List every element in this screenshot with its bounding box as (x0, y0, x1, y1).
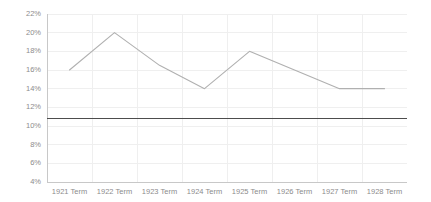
y-tick-label: 20% (26, 28, 41, 37)
x-tick-label: 1928 Term (367, 187, 402, 196)
x-tick-label: 1922 Term (97, 187, 132, 196)
y-axis-tick-labels: 22%20%18%16%14%12%10%8%6%4% (26, 9, 41, 186)
x-axis-tick-labels: 1921 Term1922 Term1923 Term1924 Term1925… (52, 187, 402, 196)
y-tick-label: 18% (26, 46, 41, 55)
y-tick-label: 22% (26, 9, 41, 18)
x-tick-label: 1925 Term (232, 187, 267, 196)
y-tick-label: 8% (30, 140, 41, 149)
y-tick-label: 6% (30, 158, 41, 167)
y-tick-label: 10% (26, 121, 41, 130)
x-tick-label: 1927 Term (322, 187, 357, 196)
line-chart: 22%20%18%16%14%12%10%8%6%4% 1921 Term192… (0, 0, 431, 202)
y-tick-label: 4% (30, 177, 41, 186)
x-tick-label: 1921 Term (52, 187, 87, 196)
chart-canvas: 22%20%18%16%14%12%10%8%6%4% 1921 Term192… (0, 0, 431, 202)
y-tick-label: 12% (26, 102, 41, 111)
vertical-gridlines (92, 14, 362, 182)
y-tick-label: 14% (26, 84, 41, 93)
x-tick-label: 1923 Term (142, 187, 177, 196)
x-tick-label: 1926 Term (277, 187, 312, 196)
y-tick-label: 16% (26, 65, 41, 74)
x-tick-label: 1924 Term (187, 187, 222, 196)
